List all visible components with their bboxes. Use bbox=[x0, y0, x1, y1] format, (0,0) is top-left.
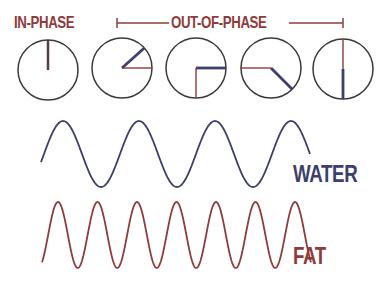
phase-diagram: IN-PHASE OUT-OF-PHASE WATER FAT bbox=[0, 0, 384, 282]
water-wave bbox=[41, 121, 310, 187]
water-vector-hand bbox=[271, 68, 292, 89]
in-phase-label: IN-PHASE bbox=[14, 14, 74, 31]
fat-label: FAT bbox=[293, 244, 326, 268]
phase-clock-out-of-phase-2 bbox=[166, 38, 226, 98]
phase-clock-in-phase bbox=[18, 40, 78, 100]
phase-clocks bbox=[18, 38, 373, 100]
diagram-canvas bbox=[0, 0, 384, 282]
fat-wave bbox=[42, 202, 311, 268]
phase-clock-out-of-phase-1 bbox=[92, 38, 152, 98]
phase-clock-out-of-phase-4 bbox=[313, 39, 373, 99]
water-vector-hand bbox=[122, 48, 144, 68]
out-of-phase-label: OUT-OF-PHASE bbox=[171, 14, 267, 31]
phase-clock-out-of-phase-3 bbox=[241, 38, 301, 98]
water-label: WATER bbox=[293, 162, 357, 186]
